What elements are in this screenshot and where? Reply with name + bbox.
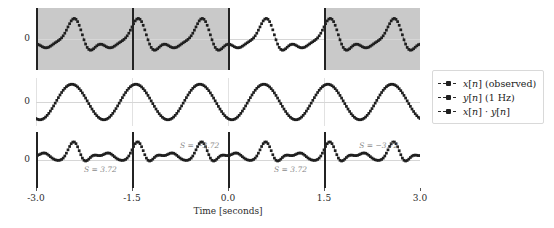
plot-area-observed-signal (36, 8, 420, 70)
segment-boundary-line (228, 8, 230, 70)
segment-boundary-line (228, 132, 230, 188)
panel-product-signal: S = 3.72S = −3.72S = 3.72S = −3.720 (0, 132, 554, 188)
legend-item-label: y[n] (1 Hz) (463, 92, 515, 103)
x-axis-tick-mark (36, 188, 37, 191)
x-axis-label: Time [seconds] (128, 206, 328, 216)
legend-dot-icon (446, 95, 451, 100)
y-axis-tick-label: 0 (10, 33, 30, 43)
legend-dot-icon (446, 109, 451, 114)
x-axis-tick-label: 0.0 (208, 193, 248, 203)
legend: x[n] (observed)y[n] (1 Hz)x[n] · y[n] (432, 70, 544, 124)
panel-observed-signal: 0 (0, 8, 554, 70)
segment-boundary-line (324, 132, 326, 188)
x-axis-tick-label: 1.5 (304, 193, 344, 203)
segment-boundary-line (36, 132, 38, 188)
signal-correlation-figure: 00S = 3.72S = −3.72S = 3.72S = −3.720-3.… (0, 0, 554, 228)
legend-marker-icon (438, 92, 458, 102)
segment-boundary-line (324, 8, 326, 70)
legend-item[interactable]: x[n] · y[n] (438, 104, 536, 118)
series-reference-sinusoid (36, 78, 420, 126)
segment-boundary-line (36, 8, 38, 70)
legend-marker-icon (438, 106, 458, 116)
x-axis-tick-mark (132, 188, 133, 191)
legend-item-label: x[n] · y[n] (463, 106, 510, 117)
y-axis-tick-label: 0 (10, 154, 30, 164)
legend-item-label: x[n] (observed) (463, 78, 536, 89)
legend-marker-icon (438, 78, 458, 88)
segment-boundary-line (132, 8, 134, 70)
correlation-sum-annotation: S = 3.72 (274, 165, 307, 174)
x-axis-tick-label: 3.0 (400, 193, 440, 203)
x-axis-tick-mark (420, 188, 421, 191)
legend-item[interactable]: x[n] (observed) (438, 76, 536, 90)
segment-boundary-line (132, 132, 134, 188)
correlation-sum-annotation: S = 3.72 (84, 165, 117, 174)
x-axis-tick-mark (324, 188, 325, 191)
x-axis-tick-label: -3.0 (16, 193, 56, 203)
correlation-sum-annotation: S = −3.72 (180, 141, 219, 150)
x-axis-tick-mark (228, 188, 229, 191)
x-axis-tick-label: -1.5 (112, 193, 152, 203)
legend-dot-icon (446, 81, 451, 86)
plot-area-reference-sinusoid (36, 78, 420, 126)
y-axis-tick-label: 0 (10, 96, 30, 106)
legend-item[interactable]: y[n] (1 Hz) (438, 90, 536, 104)
correlation-sum-annotation: S = −3.72 (359, 141, 398, 150)
